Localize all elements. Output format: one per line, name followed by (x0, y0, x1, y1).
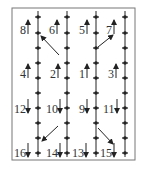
node-dot (65, 46, 69, 50)
node-label: 16 (14, 146, 26, 160)
node-dot (36, 61, 40, 65)
node-dot (65, 31, 69, 35)
node-dot (65, 61, 69, 65)
diagonal-arrows (41, 35, 113, 144)
node-dot (123, 31, 127, 35)
node-dot (94, 76, 98, 80)
node-dot (94, 15, 98, 19)
node-dot (94, 46, 98, 50)
node-label: 13 (72, 146, 84, 160)
node-dot (36, 31, 40, 35)
node-dot (94, 91, 98, 95)
node-dot (94, 31, 98, 35)
node-label: 5 (79, 23, 85, 37)
node-dot (123, 136, 127, 140)
node-dot (65, 136, 69, 140)
node-dot (36, 151, 40, 155)
node-dot (65, 151, 69, 155)
node-dot (65, 106, 69, 110)
diagram-frame (12, 8, 135, 160)
node-dot (65, 91, 69, 95)
node-dot (36, 136, 40, 140)
node-dot (65, 15, 69, 19)
node-dot (36, 15, 40, 19)
node-dot (36, 91, 40, 95)
node-dot (36, 46, 40, 50)
node-label: 4 (20, 67, 26, 81)
node-diagram: 86574213121091116141315 (0, 0, 147, 170)
node-dot (94, 151, 98, 155)
node-label: 9 (79, 102, 85, 116)
node-dot (36, 121, 40, 125)
node-label: 11 (103, 102, 115, 116)
node-dot (123, 91, 127, 95)
node-label: 12 (14, 102, 26, 116)
node-dot (123, 106, 127, 110)
node-label: 7 (106, 23, 112, 37)
node-label: 6 (49, 23, 55, 37)
node-dot (123, 151, 127, 155)
node-dot (123, 15, 127, 19)
diagonal-arrow-icon (42, 126, 58, 141)
node-label: 14 (46, 146, 58, 160)
node-label: 15 (100, 146, 112, 160)
node-dot (65, 121, 69, 125)
node-label: 3 (108, 67, 114, 81)
node-label: 8 (20, 23, 26, 37)
diagonal-arrow-icon (41, 36, 59, 55)
node-dot (123, 76, 127, 80)
node-labels: 86574213121091116141315 (14, 20, 117, 160)
node-dot (94, 106, 98, 110)
node-dot (36, 106, 40, 110)
node-dot (123, 46, 127, 50)
node-dot (123, 61, 127, 65)
node-dot (94, 136, 98, 140)
diagonal-arrow-icon (98, 128, 113, 144)
node-dot (94, 61, 98, 65)
node-dot (123, 121, 127, 125)
node-label: 10 (46, 102, 58, 116)
node-label: 1 (79, 67, 85, 81)
node-dot (36, 76, 40, 80)
node-label: 2 (50, 67, 56, 81)
node-dot (65, 76, 69, 80)
node-dot (94, 121, 98, 125)
